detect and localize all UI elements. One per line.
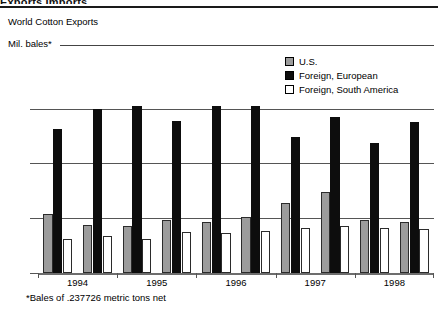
x-axis-tick-label: 1995 — [117, 277, 196, 288]
bar — [419, 229, 428, 273]
legend-item-label: Foreign, South America — [299, 84, 398, 95]
y-tick-mark — [30, 109, 38, 110]
y-axis-unit-label: Mil. bales* — [8, 38, 52, 49]
y-tick-mark — [30, 273, 38, 274]
bar — [123, 226, 132, 273]
gridline-0 — [38, 273, 434, 275]
legend-item-label: Foreign, European — [299, 70, 378, 81]
bar — [83, 225, 92, 273]
x-axis-tick-label: 1994 — [38, 277, 117, 288]
bar — [321, 192, 330, 273]
bar — [142, 239, 151, 273]
bar — [63, 239, 72, 273]
page-title: World Cotton Exports — [8, 16, 98, 27]
bar — [202, 222, 211, 273]
bar — [410, 122, 419, 273]
bar — [132, 106, 141, 273]
chart-legend: U.S. Foreign, European Foreign, South Am… — [285, 55, 435, 97]
bar — [380, 228, 389, 273]
bar — [291, 137, 300, 273]
bar — [93, 109, 102, 273]
bar — [370, 143, 379, 273]
clipped-headline: Exports Imports — [0, 0, 438, 4]
footnote: *Bales of .237726 metric tons net — [26, 292, 166, 303]
plot-area: 04812 19941995199619971998 — [38, 95, 434, 273]
y-tick-mark — [30, 163, 38, 164]
white-swatch-icon — [285, 85, 294, 94]
bar — [221, 233, 230, 273]
bar — [400, 222, 409, 273]
unit-label-rule — [60, 45, 434, 46]
legend-item-us: U.S. — [285, 55, 435, 68]
bar — [212, 106, 221, 273]
chart-page: Exports Imports World Cotton Exports Mil… — [0, 0, 438, 311]
bar — [241, 217, 250, 273]
bar — [251, 106, 260, 273]
bar — [340, 226, 349, 273]
bar — [172, 121, 181, 273]
bar — [43, 214, 52, 273]
x-axis-tick-label: 1998 — [355, 277, 434, 288]
bar — [162, 220, 171, 273]
x-axis-tick-label: 1997 — [276, 277, 355, 288]
bar — [182, 232, 191, 273]
bars-layer — [38, 95, 434, 273]
bar — [301, 228, 310, 273]
y-tick-mark — [30, 218, 38, 219]
bar — [281, 203, 290, 273]
x-axis-tick-label: 1996 — [196, 277, 275, 288]
gray-swatch-icon — [285, 57, 294, 66]
black-swatch-icon — [285, 71, 294, 80]
bar — [103, 236, 112, 273]
bar — [360, 220, 369, 273]
bar — [330, 117, 339, 273]
bar — [53, 129, 62, 273]
legend-item-foreign-european: Foreign, European — [285, 69, 435, 82]
legend-item-label: U.S. — [299, 56, 317, 67]
bar — [261, 231, 270, 273]
top-divider-rule — [0, 6, 438, 8]
